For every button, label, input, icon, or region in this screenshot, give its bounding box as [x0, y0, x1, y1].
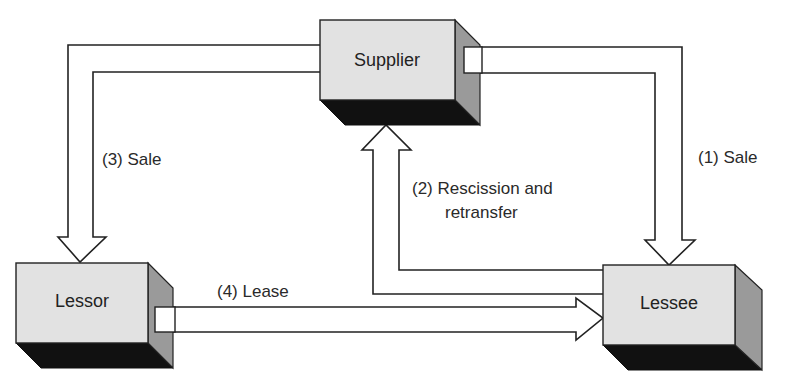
edge-label-2-line1: (2) Rescission and [412, 179, 553, 198]
edge-label-4: (4) Lease [217, 282, 289, 301]
edge-label-3: (3) Sale [102, 150, 162, 169]
edge-label-2-line2: retransfer [445, 203, 518, 222]
arrow-3-sale-supplier-to-lessor [58, 45, 322, 262]
node-label-supplier: Supplier [354, 50, 420, 70]
node-lessor: Lessor [16, 263, 175, 368]
sale-and-leaseback-diagram: Supplier Lessor Lessee (3) Sale (1) Sale… [0, 0, 787, 383]
node-lessee: Lessee [603, 265, 762, 370]
node-label-lessee: Lessee [640, 293, 698, 313]
edge-label-1: (1) Sale [698, 148, 758, 167]
node-label-lessor: Lessor [55, 291, 109, 311]
arrow-1-sale-supplier-to-lessee [466, 47, 695, 265]
node-supplier: Supplier [320, 20, 482, 125]
arrow-4-lease-lessor-to-lessee [157, 298, 603, 340]
